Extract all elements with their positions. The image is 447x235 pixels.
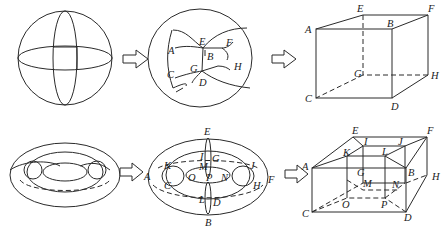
label-H: H: [430, 70, 440, 81]
label-D: D: [212, 197, 221, 208]
label-C: C: [305, 93, 313, 104]
label-G: G: [354, 68, 362, 79]
label-F: F: [427, 3, 435, 14]
label-A: A: [143, 171, 151, 182]
arrow-right-icon: [123, 50, 148, 68]
label-G: G: [212, 153, 220, 164]
label-B: B: [205, 217, 212, 228]
sphere-partitioned-figure: A E F B G H C D: [148, 9, 252, 107]
label-O: O: [342, 199, 350, 210]
label-E: E: [203, 126, 211, 137]
label-J: J: [250, 160, 256, 171]
label-E: E: [356, 3, 364, 14]
label-L: L: [198, 194, 205, 205]
label-A: A: [167, 45, 175, 56]
label-K: K: [342, 147, 351, 158]
diagram-canvas: A E F B G H C D A E B F G H C D: [0, 0, 447, 235]
label-O: O: [188, 172, 196, 183]
label-L: L: [381, 146, 388, 157]
label-K: K: [163, 160, 172, 171]
label-P: P: [380, 199, 388, 210]
label-H: H: [252, 180, 262, 191]
label-E: E: [351, 125, 359, 136]
label-D: D: [198, 77, 207, 88]
label-N: N: [391, 179, 400, 190]
label-B: B: [408, 167, 415, 178]
label-B: B: [207, 51, 214, 62]
label-M: M: [198, 161, 209, 172]
sphere-figure: [18, 11, 112, 105]
torus-figure: [10, 143, 120, 207]
label-H: H: [233, 61, 243, 72]
label-A: A: [304, 24, 312, 35]
label-C: C: [164, 180, 172, 191]
label-D: D: [390, 101, 399, 112]
label-D: D: [403, 212, 412, 223]
label-B: B: [387, 18, 394, 29]
label-P: P: [205, 172, 213, 183]
label-H: H: [431, 171, 441, 182]
arrow-right-icon: [120, 163, 143, 181]
label-J: J: [398, 136, 404, 147]
label-E: E: [198, 36, 206, 47]
frame-box-figure: E I J F K L A G B H M N C O P D: [301, 125, 441, 223]
torus-partitioned-figure: E K I G J A M C O P N H F L D B: [143, 126, 275, 228]
label-A: A: [301, 161, 309, 172]
arrow-right-icon: [272, 50, 296, 68]
label-M: M: [362, 178, 373, 189]
label-I: I: [363, 136, 368, 147]
label-F: F: [267, 174, 275, 185]
label-F: F: [225, 37, 233, 48]
label-G: G: [357, 167, 365, 178]
label-F: F: [426, 125, 434, 136]
label-N: N: [220, 172, 229, 183]
label-C: C: [302, 208, 310, 219]
label-C: C: [167, 69, 175, 80]
cube-figure: A E B F G H C D: [304, 3, 440, 112]
label-G: G: [190, 63, 198, 74]
